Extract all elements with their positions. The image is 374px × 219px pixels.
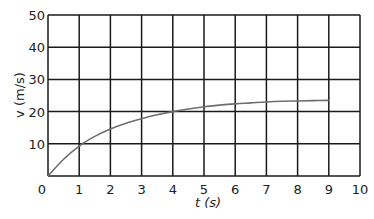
y-axis-label: v (m/s) (12, 72, 27, 118)
y-tick-label: 20 (28, 105, 45, 120)
x-tick-label: 1 (75, 182, 83, 197)
x-tick-label: 8 (293, 182, 301, 197)
x-tick-label: 6 (231, 182, 239, 197)
x-axis-label: t (s) (195, 195, 221, 210)
x-tick-label: 9 (325, 182, 333, 197)
velocity-time-chart: 12345678910 1020304050 0 t (s) v (m/s) (0, 0, 374, 219)
y-tick-label: 50 (28, 8, 45, 23)
x-tick-label: 10 (352, 182, 369, 197)
y-tick-label: 30 (28, 72, 45, 87)
x-tick-label: 2 (106, 182, 114, 197)
y-tick-labels: 1020304050 (28, 8, 45, 152)
x-tick-label: 4 (169, 182, 177, 197)
x-tick-label: 7 (262, 182, 270, 197)
y-tick-label: 40 (28, 40, 45, 55)
origin-label: 0 (38, 182, 46, 197)
grid (48, 15, 360, 176)
x-tick-label: 3 (137, 182, 145, 197)
y-tick-label: 10 (28, 137, 45, 152)
x-tick-labels: 12345678910 (75, 182, 368, 197)
